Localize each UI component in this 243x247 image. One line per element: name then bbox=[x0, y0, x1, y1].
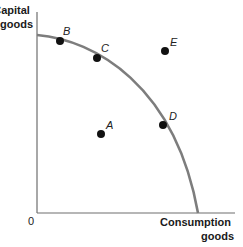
x-axis-title: Consumption goods bbox=[160, 216, 234, 242]
svg-text:E: E bbox=[170, 36, 178, 48]
y-axis-title: Capital goods bbox=[0, 4, 33, 30]
svg-text:A: A bbox=[105, 119, 113, 131]
point-a: A bbox=[97, 119, 113, 138]
point-e: E bbox=[161, 36, 178, 55]
origin-label: 0 bbox=[28, 215, 34, 227]
svg-text:C: C bbox=[101, 42, 109, 54]
svg-text:B: B bbox=[63, 25, 70, 37]
ppf-chart: Capital goods Consumption goods 0 B C E … bbox=[0, 0, 243, 247]
svg-text:D: D bbox=[169, 110, 177, 122]
ppf-curve bbox=[37, 35, 198, 213]
